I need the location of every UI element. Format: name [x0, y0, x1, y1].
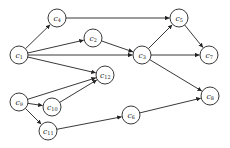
- node-c2: c2: [84, 29, 102, 47]
- node-c7: c7: [200, 46, 218, 64]
- edge-c9-c10: [28, 103, 43, 105]
- node-c8: c8: [201, 87, 219, 105]
- edge-c11-c6: [57, 117, 122, 129]
- edge-c3-c5: [148, 25, 172, 49]
- edge-c3-c8: [150, 60, 202, 91]
- diagram-canvas: c1c4c2c3c5c7c12c9c10c11c6c8: [0, 0, 230, 148]
- node-c4: c4: [48, 9, 66, 27]
- node-c6: c6: [122, 106, 140, 124]
- edge-c1-c4: [25, 25, 50, 49]
- node-c1: c1: [10, 46, 28, 64]
- edge-c2-c3: [102, 41, 134, 52]
- edge-c1-c2: [28, 40, 84, 53]
- directed-graph: c1c4c2c3c5c7c12c9c10c11c6c8: [0, 0, 230, 148]
- edge-c5-c7: [185, 25, 203, 48]
- node-c11: c11: [39, 122, 57, 140]
- edge-c6-c8: [140, 98, 201, 113]
- edge-c1-c12: [28, 57, 96, 73]
- node-c5: c5: [170, 9, 188, 27]
- node-c3: c3: [133, 46, 151, 64]
- edge-c9-c12: [28, 78, 96, 99]
- node-c10: c10: [43, 98, 61, 116]
- node-c12: c12: [96, 66, 114, 84]
- node-c9: c9: [10, 93, 28, 111]
- edge-c9-c11: [25, 108, 41, 124]
